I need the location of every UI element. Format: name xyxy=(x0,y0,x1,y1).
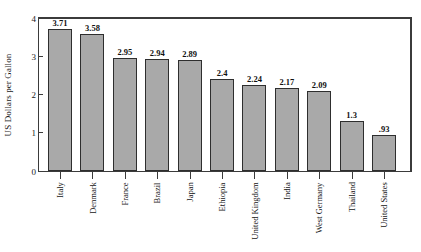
x-axis-tick-mark xyxy=(319,172,320,179)
bar xyxy=(242,85,266,171)
x-axis-tick-mark xyxy=(125,172,126,179)
chart-figure: US Dollars per Gallon 01234 3.713.582.95… xyxy=(0,0,421,252)
x-axis-tick-mark xyxy=(190,172,191,179)
x-axis-category-label: Brazil xyxy=(150,182,164,250)
y-axis-tick-label: 2 xyxy=(32,90,37,100)
x-axis-category-label: Japan xyxy=(183,182,197,250)
bar-value-label: 2.89 xyxy=(170,49,210,59)
x-axis-category-label-text: Italy xyxy=(55,182,65,198)
x-axis-category-label-text: Ethiopia xyxy=(217,182,227,211)
bar-value-label: 2.09 xyxy=(299,80,339,90)
x-axis-tick-mark xyxy=(254,172,255,179)
bar xyxy=(145,59,169,171)
y-axis-tick-label: 4 xyxy=(32,14,37,24)
bar-slot: 2.24 xyxy=(242,18,266,171)
bar-value-label: 1.3 xyxy=(332,110,372,120)
x-axis-category-label: United States xyxy=(377,182,391,250)
x-axis-tick-mark xyxy=(157,172,158,179)
bar xyxy=(178,60,202,171)
x-axis-category-label: United Kingdom xyxy=(247,182,261,250)
x-axis-category-label-text: Brazil xyxy=(152,182,162,203)
x-axis-tick-mark xyxy=(222,172,223,179)
x-axis-category-label-text: United States xyxy=(379,182,389,228)
bar-slot: .93 xyxy=(372,18,396,171)
y-axis-title-text: US Dollars per Gallon xyxy=(3,53,13,136)
bar xyxy=(210,79,234,171)
x-axis-category-label: Denmark xyxy=(85,182,99,250)
x-axis-tick-mark xyxy=(352,172,353,179)
bar xyxy=(113,58,137,171)
bar xyxy=(372,135,396,171)
bar xyxy=(48,29,72,171)
bar-slot: 3.71 xyxy=(48,18,72,171)
y-axis-title: US Dollars per Gallon xyxy=(0,17,16,172)
bar-slot: 1.3 xyxy=(340,18,364,171)
x-axis-category-label: France xyxy=(118,182,132,250)
x-axis-category-label-text: West Germany xyxy=(314,182,324,233)
bar xyxy=(80,34,104,171)
x-axis-category-label: Italy xyxy=(53,182,67,250)
bar xyxy=(340,121,364,171)
x-axis-tick-mark xyxy=(287,172,288,179)
y-axis-tick-label: 3 xyxy=(32,52,37,62)
x-axis-category-label: West Germany xyxy=(312,182,326,250)
x-axis-category-label-text: United Kingdom xyxy=(249,182,259,239)
x-axis-tick-mark xyxy=(92,172,93,179)
x-axis-category-label: Ethiopia xyxy=(215,182,229,250)
x-axis-tick-mark xyxy=(60,172,61,179)
plot-area: 3.713.582.952.942.892.42.242.172.091.3.9… xyxy=(39,18,410,171)
y-axis-tick-label: 0 xyxy=(32,167,37,177)
x-axis-category-label-text: Japan xyxy=(185,182,195,201)
bar xyxy=(307,91,331,171)
x-axis-tick-mark xyxy=(384,172,385,179)
bar xyxy=(275,88,299,171)
bar-slot: 2.95 xyxy=(113,18,137,171)
x-axis-category-label: India xyxy=(280,182,294,250)
x-axis-category-label-text: India xyxy=(282,182,292,199)
y-axis-tick-label: 1 xyxy=(32,128,37,138)
bar-slot: 2.4 xyxy=(210,18,234,171)
bar-value-label: 3.58 xyxy=(72,23,112,33)
x-axis-category-label-text: Denmark xyxy=(87,182,97,214)
bar-slot: 2.94 xyxy=(145,18,169,171)
bar-slot: 3.58 xyxy=(80,18,104,171)
x-axis-category-label: Thailand xyxy=(345,182,359,250)
bar-slot: 2.09 xyxy=(307,18,331,171)
bar-slot: 2.17 xyxy=(275,18,299,171)
x-axis-category-label-text: Thailand xyxy=(347,182,357,212)
x-axis-category-label-text: France xyxy=(120,182,130,205)
bar-value-label: .93 xyxy=(364,124,404,134)
bar-slot: 2.89 xyxy=(178,18,202,171)
